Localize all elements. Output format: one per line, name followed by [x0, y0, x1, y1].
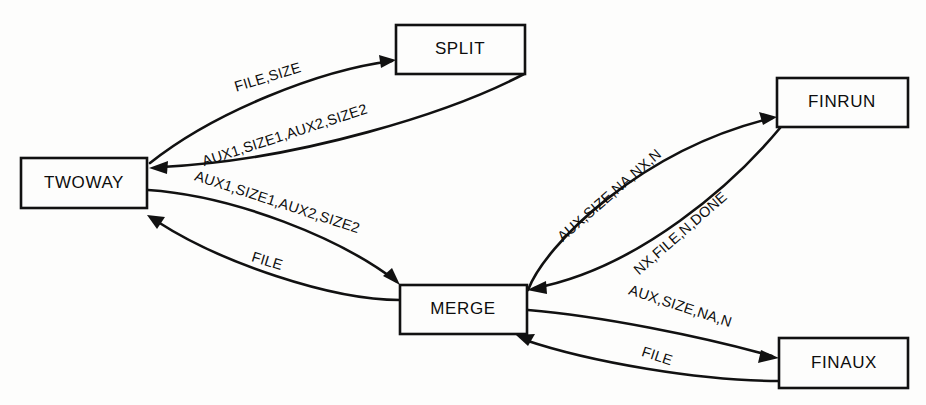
node-merge-label: MERGE — [430, 299, 495, 318]
node-twoway[interactable]: TWOWAY — [21, 158, 147, 208]
node-split-label: SPLIT — [435, 39, 485, 58]
node-finrun[interactable]: FINRUN — [777, 78, 908, 127]
edge-twoway-merge-arrowhead — [383, 268, 400, 285]
diagram-svg: FILE,SIZE AUX1,SIZE1,AUX2,SIZE2 AUX1,SIZ… — [0, 0, 926, 405]
edge-split-twoway-label: AUX1,SIZE1,AUX2,SIZE2 — [200, 101, 369, 170]
node-finaux[interactable]: FINAUX — [779, 338, 908, 388]
node-finrun-label: FINRUN — [808, 92, 876, 111]
edge-merge-finaux-label: AUX,SIZE,NA,N — [627, 282, 734, 330]
node-split[interactable]: SPLIT — [396, 25, 525, 74]
edge-merge-finaux-arrowhead — [758, 350, 779, 363]
edge-merge-finrun-label: AUX,SIZE,NA,NX,N — [554, 146, 664, 245]
node-finaux-label: FINAUX — [811, 353, 877, 372]
edge-split-twoway: AUX1,SIZE1,AUX2,SIZE2 — [149, 74, 524, 174]
edge-merge-finrun-arrowhead — [759, 112, 777, 125]
diagram-canvas: FILE,SIZE AUX1,SIZE1,AUX2,SIZE2 AUX1,SIZ… — [0, 0, 926, 405]
edge-twoway-split-arrowhead — [379, 55, 396, 68]
edge-finrun-merge-label: NX,FILE,N,DONE — [630, 188, 730, 278]
edge-finaux-merge-label: FILE — [640, 343, 675, 368]
edge-merge-twoway-arrowhead — [147, 215, 165, 229]
node-merge[interactable]: MERGE — [400, 285, 527, 334]
edge-finaux-merge: FILE — [516, 334, 779, 381]
edge-finaux-merge-arrowhead — [516, 334, 535, 346]
node-twoway-label: TWOWAY — [44, 173, 124, 192]
edge-twoway-split-label: FILE,SIZE — [232, 59, 302, 94]
